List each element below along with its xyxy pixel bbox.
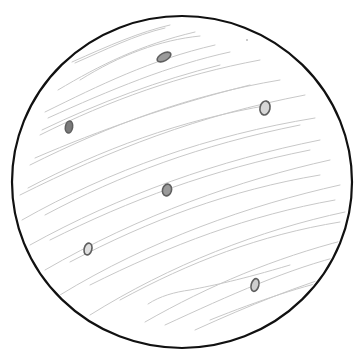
- sketch-svg: [0, 0, 356, 352]
- stray-dot: [246, 39, 248, 41]
- spot-1: [156, 50, 173, 64]
- spot-2: [259, 100, 272, 116]
- spot-5: [83, 242, 93, 256]
- spots: [64, 50, 271, 292]
- spot-4: [161, 183, 173, 197]
- sketch-canvas: [0, 0, 356, 352]
- circle-outline: [12, 16, 352, 348]
- hatching-strokes: [20, 25, 345, 330]
- spot-6: [250, 278, 261, 293]
